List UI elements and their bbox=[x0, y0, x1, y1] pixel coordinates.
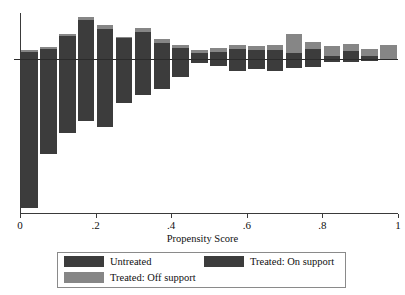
x-axis-title: Propensity Score bbox=[0, 233, 405, 244]
treated-on-support-segment bbox=[267, 50, 284, 59]
treated-off-support-segment bbox=[380, 45, 397, 59]
untreated-bar bbox=[229, 59, 246, 71]
untreated-bar bbox=[97, 59, 114, 127]
x-tick bbox=[322, 214, 323, 218]
treated-off-support-segment bbox=[305, 42, 322, 49]
legend: Untreated Treated: On support Treated: O… bbox=[57, 252, 346, 288]
untreated-bar bbox=[116, 59, 133, 103]
treated-on-support-segment bbox=[248, 50, 265, 59]
treated-on-support-segment bbox=[21, 52, 38, 59]
x-tick bbox=[247, 214, 248, 218]
treated-off-support-segment bbox=[361, 49, 378, 56]
treated-on-support-segment bbox=[305, 49, 322, 59]
treated-off-support-segment bbox=[286, 34, 303, 53]
treated-bar bbox=[380, 45, 397, 59]
treated-bar bbox=[59, 34, 76, 59]
treated-bar bbox=[21, 50, 38, 59]
treated-bar bbox=[305, 42, 322, 59]
x-tick bbox=[398, 214, 399, 218]
treated-bar bbox=[116, 37, 133, 59]
untreated-bar bbox=[305, 59, 322, 67]
treated-on-support-segment bbox=[154, 43, 171, 59]
treated-bar bbox=[267, 45, 284, 59]
x-tick-label: .4 bbox=[158, 219, 184, 231]
treated-bar bbox=[191, 50, 208, 59]
zero-reference-line bbox=[14, 59, 398, 60]
treated-bar bbox=[40, 47, 57, 59]
untreated-bar bbox=[59, 59, 76, 133]
legend-swatch-on-support bbox=[204, 256, 244, 267]
treated-bar bbox=[286, 34, 303, 59]
untreated-bar bbox=[135, 59, 152, 95]
treated-off-support-segment bbox=[343, 44, 360, 51]
treated-on-support-segment bbox=[78, 20, 95, 59]
untreated-bar bbox=[40, 59, 57, 154]
treated-bar bbox=[324, 46, 341, 59]
treated-bar bbox=[229, 45, 246, 59]
legend-item-off-support: Treated: Off support bbox=[64, 272, 196, 283]
treated-on-support-segment bbox=[172, 48, 189, 59]
legend-label-on-support: Treated: On support bbox=[250, 256, 334, 267]
treated-on-support-segment bbox=[59, 36, 76, 59]
x-tick-label: .8 bbox=[309, 219, 335, 231]
treated-on-support-segment bbox=[229, 49, 246, 59]
x-tick-label: .6 bbox=[234, 219, 260, 231]
untreated-bar bbox=[248, 59, 265, 69]
treated-bar bbox=[154, 39, 171, 59]
x-tick-label: 1 bbox=[385, 219, 405, 231]
treated-bar bbox=[97, 25, 114, 59]
treated-on-support-segment bbox=[343, 51, 360, 59]
propensity-score-figure: 0.2.4.6.81 Propensity Score Untreated Tr… bbox=[0, 0, 405, 295]
treated-bar bbox=[135, 28, 152, 59]
untreated-bar bbox=[21, 59, 38, 208]
y-axis-line bbox=[20, 13, 21, 214]
plot-area: 0.2.4.6.81 bbox=[0, 0, 405, 240]
treated-on-support-segment bbox=[116, 38, 133, 59]
legend-label-off-support: Treated: Off support bbox=[110, 272, 196, 283]
treated-off-support-segment bbox=[324, 46, 341, 57]
treated-bar bbox=[361, 49, 378, 59]
treated-bar bbox=[78, 17, 95, 59]
treated-on-support-segment bbox=[210, 52, 227, 59]
treated-on-support-segment bbox=[97, 29, 114, 59]
x-tick bbox=[96, 214, 97, 218]
treated-bar bbox=[172, 45, 189, 59]
x-tick bbox=[20, 214, 21, 218]
untreated-bar bbox=[172, 59, 189, 77]
treated-bar bbox=[343, 44, 360, 59]
legend-label-untreated: Untreated bbox=[110, 256, 151, 267]
treated-bar bbox=[210, 48, 227, 59]
treated-bar bbox=[248, 46, 265, 59]
legend-swatch-off-support bbox=[64, 272, 104, 283]
x-tick-label: 0 bbox=[7, 219, 33, 231]
untreated-bar bbox=[78, 59, 95, 121]
untreated-bar bbox=[267, 59, 284, 71]
x-axis-line bbox=[20, 213, 398, 214]
legend-swatch-untreated bbox=[64, 256, 104, 267]
legend-item-untreated: Untreated bbox=[64, 256, 151, 267]
treated-on-support-segment bbox=[40, 49, 57, 59]
untreated-bar bbox=[154, 59, 171, 89]
x-tick-label: .2 bbox=[83, 219, 109, 231]
untreated-bar bbox=[286, 59, 303, 68]
legend-item-on-support: Treated: On support bbox=[204, 256, 334, 267]
treated-on-support-segment bbox=[135, 32, 152, 59]
x-tick bbox=[171, 214, 172, 218]
